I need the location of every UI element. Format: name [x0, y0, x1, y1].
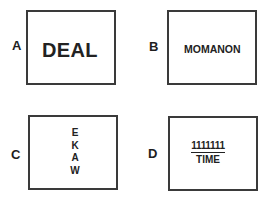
panel-c-box: E K A W [28, 115, 118, 190]
panel-c-letter: W [70, 165, 79, 178]
panel-d-denominator: TIME [196, 155, 220, 165]
panel-c-letter: A [71, 152, 78, 165]
panel-label-a: A [12, 39, 21, 52]
panel-d-box: 1111111 TIME [168, 116, 258, 191]
panel-b-box: MOMANON [167, 10, 257, 85]
panel-c-letter: K [71, 140, 78, 153]
panel-c-letter: E [72, 127, 79, 140]
panel-label-c: C [11, 148, 20, 161]
panel-c-vertical-word: E K A W [68, 127, 82, 177]
panel-a-word: DEAL [42, 40, 98, 60]
panel-d-numerator: 1111111 [191, 141, 225, 153]
panel-a-box: DEAL [26, 10, 116, 85]
panel-b-word: MOMANON [184, 44, 241, 55]
panel-label-b: B [149, 40, 158, 53]
panel-d-fraction: 1111111 TIME [186, 141, 230, 165]
panel-label-d: D [148, 147, 157, 160]
